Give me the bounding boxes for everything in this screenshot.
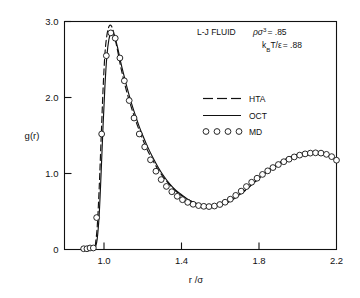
md-data-point [238, 188, 244, 194]
md-data-point [222, 199, 228, 205]
md-data-point [291, 154, 297, 160]
radial-distribution-chart: 1.01.41.82.2 01.02.03.0 L-J FLUID ρσ3= .… [0, 0, 360, 298]
md-data-point [190, 201, 196, 207]
md-data-point [117, 55, 123, 61]
md-data-point [153, 168, 159, 174]
md-data-point [265, 168, 271, 174]
y-tick-label: 3.0 [45, 16, 58, 27]
md-data-point [227, 196, 233, 202]
md-data-point [108, 30, 114, 36]
md-data-point [297, 152, 303, 158]
x-tick-label: 1.4 [175, 255, 188, 266]
md-data-point [148, 157, 154, 163]
legend-label-oct: OCT [249, 111, 267, 121]
md-data-point [136, 131, 142, 137]
md-data-point [103, 53, 109, 59]
md-data-point [112, 35, 118, 41]
md-data-point [99, 131, 105, 137]
y-axis-title: g(r) [25, 130, 40, 141]
md-data-point [185, 199, 191, 205]
md-data-point [318, 150, 324, 156]
legend-swatch-md-circle-2 [214, 129, 220, 135]
md-data-point [206, 204, 212, 210]
md-data-point [131, 115, 137, 121]
md-data-point [158, 177, 164, 183]
annotation-density: ρσ3= .85 [252, 26, 287, 38]
md-data-point [174, 193, 180, 199]
md-data-point [313, 150, 319, 156]
md-data-point [142, 144, 148, 150]
x-axis-title: r /σ [189, 274, 203, 285]
x-tick-label: 2.2 [330, 255, 343, 266]
md-data-point [254, 175, 260, 181]
md-data-point [233, 192, 239, 198]
legend-label-md: MD [249, 127, 262, 137]
annotation-fluid-label: L-J FLUID [197, 27, 236, 37]
y-tick-label: 1.0 [45, 168, 58, 179]
y-tick-label: 0 [53, 244, 58, 255]
md-data-point [275, 162, 281, 168]
x-tick-label: 1.8 [252, 255, 265, 266]
md-data-point [121, 78, 127, 84]
md-data-point [169, 189, 175, 195]
x-tick-label: 1.0 [97, 255, 110, 266]
md-data-point [244, 184, 250, 190]
md-data-point [334, 157, 340, 163]
md-data-point [270, 165, 276, 171]
md-data-point [163, 184, 169, 190]
md-data-point [249, 179, 255, 185]
md-data-point [212, 203, 218, 209]
md-data-point [260, 172, 266, 178]
legend-swatch-md-circle-3 [225, 129, 231, 135]
md-data-point [126, 98, 132, 104]
legend-swatch-md-circle-1 [203, 129, 209, 135]
figure-container: 1.01.41.82.2 01.02.03.0 L-J FLUID ρσ3= .… [0, 0, 360, 298]
md-data-point [90, 245, 96, 251]
y-tick-label: 2.0 [45, 92, 58, 103]
legend-label-hta: HTA [249, 94, 266, 104]
md-data-point [94, 215, 100, 221]
legend-swatch-md-circle-4 [236, 129, 242, 135]
